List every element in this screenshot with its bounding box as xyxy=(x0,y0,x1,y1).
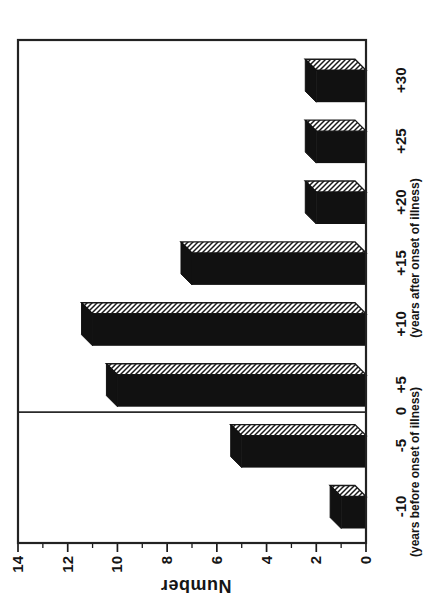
x-sublabel-before: (years before onset of illness) xyxy=(408,387,422,557)
x-sublabel-after: (years after onset of illness) xyxy=(408,178,422,337)
bar-side-face-+15 xyxy=(181,242,366,253)
zero-tick-label: 0 xyxy=(392,407,409,415)
bar-side-face--5 xyxy=(231,425,366,436)
bar-front-face-+10 xyxy=(93,314,366,346)
y-axis-title: Number xyxy=(160,576,231,596)
bar-chart: 024681012140-10-5+5+10+15+20+25+30 Numbe… xyxy=(0,0,426,600)
y-tick-label: 8 xyxy=(158,556,175,564)
bar-front-face-+15 xyxy=(192,253,366,285)
category-label-+20: +20 xyxy=(392,189,409,214)
bar-front-face-+5 xyxy=(117,375,366,407)
category-label--10: -10 xyxy=(392,496,409,518)
category-label-+15: +15 xyxy=(392,250,409,275)
bar-front-face--10 xyxy=(341,497,366,529)
y-tick-label: 6 xyxy=(208,556,225,564)
figure-page: 024681012140-10-5+5+10+15+20+25+30 Numbe… xyxy=(0,0,426,600)
chart-rotated-canvas: 024681012140-10-5+5+10+15+20+25+30 Numbe… xyxy=(0,0,426,600)
bar-side-face-+5 xyxy=(106,364,366,375)
bar-front-face-+30 xyxy=(316,70,366,102)
bar-front-face-+20 xyxy=(316,192,366,224)
plot-area: 024681012140-10-5+5+10+15+20+25+30 xyxy=(9,59,409,572)
y-tick-label: 2 xyxy=(307,556,324,564)
bar-side-face-+10 xyxy=(82,303,366,314)
category-label--5: -5 xyxy=(392,439,409,452)
bar-front-face--5 xyxy=(242,436,366,468)
category-label-+25: +25 xyxy=(392,128,409,153)
y-tick-label: 10 xyxy=(108,556,125,573)
y-tick-label: 0 xyxy=(357,556,374,564)
y-tick-label: 12 xyxy=(59,556,76,573)
category-label-+10: +10 xyxy=(392,311,409,336)
bar-front-face-+25 xyxy=(316,131,366,163)
category-label-+30: +30 xyxy=(392,67,409,92)
y-tick-label: 4 xyxy=(258,555,275,564)
category-label-+5: +5 xyxy=(392,376,409,393)
y-tick-label: 14 xyxy=(9,555,26,572)
